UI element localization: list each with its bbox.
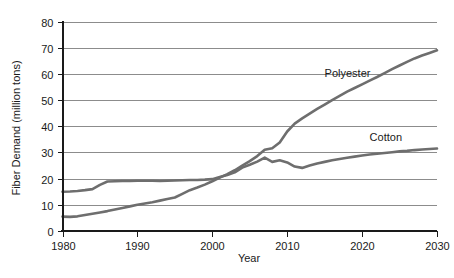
y-tick-label-50: 50: [41, 95, 53, 107]
x-tick-label-2010: 2010: [275, 240, 299, 252]
x-tick-label-1980: 1980: [51, 240, 75, 252]
y-tick-label-40: 40: [41, 121, 53, 133]
y-tick-label-10: 10: [41, 200, 53, 212]
series-label-polyester: Polyester: [325, 67, 371, 79]
series-label-cotton: Cotton: [370, 131, 402, 143]
y-tick-label-80: 80: [41, 17, 53, 29]
chart-canvas: 01020304050607080 1980199020002010202020…: [0, 0, 454, 278]
y-axis-title: Fiber Demand (million tons): [10, 60, 22, 195]
x-tick-label-2030: 2030: [425, 240, 449, 252]
y-tick-label-30: 30: [41, 147, 53, 159]
y-tick-label-70: 70: [41, 43, 53, 55]
fiber-demand-line-chart: 01020304050607080 1980199020002010202020…: [0, 0, 454, 278]
x-tick-label-2020: 2020: [350, 240, 374, 252]
x-tick-label-1990: 1990: [125, 240, 149, 252]
x-axis-title: Year: [238, 252, 261, 264]
x-tick-label-2000: 2000: [200, 240, 224, 252]
y-tick-label-60: 60: [41, 69, 53, 81]
y-tick-label-20: 20: [41, 174, 53, 186]
y-tick-label-0: 0: [47, 226, 53, 238]
